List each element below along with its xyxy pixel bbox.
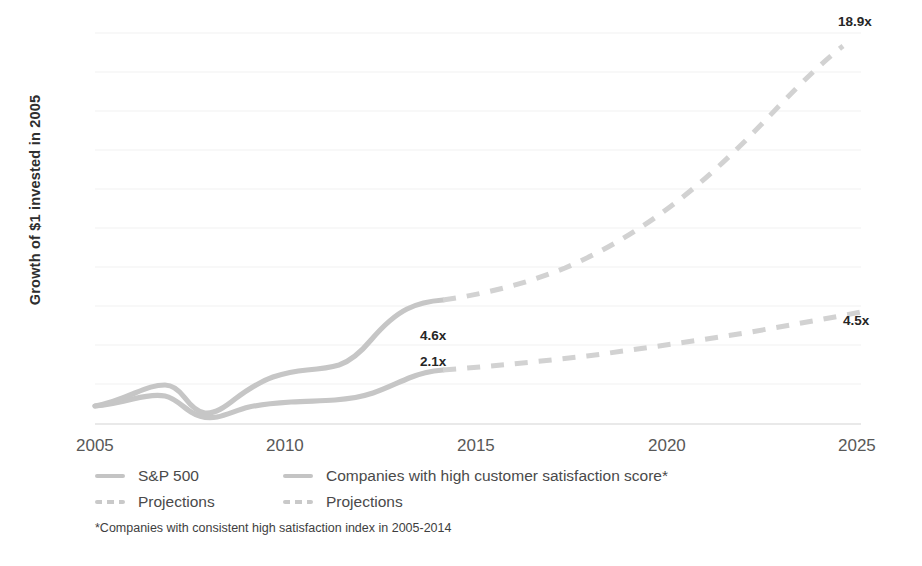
legend-label-sp500-projections: Projections <box>138 493 215 511</box>
gridlines <box>95 33 861 384</box>
value-label-sp500-projected: 4.5x <box>843 313 869 328</box>
x-tick-2010: 2010 <box>266 436 304 456</box>
legend-line-swatch-icon <box>95 474 125 478</box>
x-axis-tick-labels: 2005 2010 2015 2020 2025 <box>0 436 922 462</box>
legend-label-sp500: S&P 500 <box>138 467 199 485</box>
series-projection-sp500 <box>443 312 861 370</box>
chart-footnote: *Companies with consistent high satisfac… <box>95 521 451 535</box>
x-tick-2005: 2005 <box>76 436 114 456</box>
legend-dashed-swatch-icon <box>95 500 125 504</box>
chart-container: Growth of $1 invested in 2005 <box>0 0 922 566</box>
plot-area: 4.6x 2.1x 18.9x 4.5x <box>95 28 861 428</box>
legend-row-dashed: Projections Projections <box>95 489 795 515</box>
legend-item-sp500[interactable]: S&P 500 <box>95 467 283 485</box>
x-tick-2020: 2020 <box>648 436 686 456</box>
chart-plot-svg <box>95 28 861 428</box>
value-label-sp500-actual: 2.1x <box>420 354 446 369</box>
legend-row-solid: S&P 500 Companies with high customer sat… <box>95 463 795 489</box>
value-label-high-satisfaction-projected: 18.9x <box>838 14 872 29</box>
value-label-high-satisfaction-actual: 4.6x <box>420 328 446 343</box>
legend-item-high-satisfaction-projections[interactable]: Projections <box>283 493 403 511</box>
series-projection-high-satisfaction <box>443 46 843 300</box>
legend-label-high-satisfaction: Companies with high customer satisfactio… <box>326 467 668 485</box>
legend-dashed-swatch-icon <box>283 500 313 504</box>
legend-item-high-satisfaction[interactable]: Companies with high customer satisfactio… <box>283 467 668 485</box>
y-axis-title: Growth of $1 invested in 2005 <box>18 0 52 410</box>
chart-legend: S&P 500 Companies with high customer sat… <box>95 463 795 515</box>
x-tick-2015: 2015 <box>457 436 495 456</box>
legend-label-high-satisfaction-projections: Projections <box>326 493 403 511</box>
x-tick-2025: 2025 <box>838 436 876 456</box>
legend-item-sp500-projections[interactable]: Projections <box>95 493 283 511</box>
legend-line-swatch-icon <box>283 474 313 478</box>
